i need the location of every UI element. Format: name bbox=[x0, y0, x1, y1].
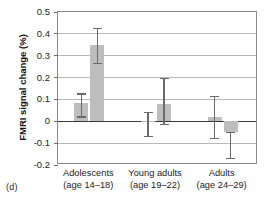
y-axis-tick-label: 0 bbox=[45, 115, 50, 126]
error-bar-cap bbox=[93, 63, 102, 64]
x-axis-group-name: Adolescents bbox=[63, 168, 114, 178]
error-bar-cap bbox=[144, 136, 153, 137]
error-bar bbox=[230, 132, 231, 158]
error-bar-cap bbox=[226, 132, 235, 133]
y-axis-tick-label: 0.1 bbox=[37, 93, 50, 104]
error-bar-cap bbox=[144, 112, 153, 113]
panel-label: (d) bbox=[6, 182, 18, 192]
plot-area bbox=[57, 11, 257, 164]
x-axis-group-name: Adults bbox=[209, 168, 235, 178]
error-bar bbox=[97, 28, 98, 63]
bar bbox=[224, 121, 238, 132]
gridline bbox=[58, 77, 256, 78]
error-bar-cap bbox=[77, 93, 86, 94]
error-bar bbox=[81, 94, 82, 117]
y-axis-tick bbox=[54, 143, 58, 144]
y-axis-tick-label: 0.4 bbox=[37, 27, 50, 38]
x-axis-group-name: Young adults bbox=[128, 168, 181, 178]
y-axis-tick bbox=[54, 55, 58, 56]
y-axis-tick bbox=[54, 99, 58, 100]
gridline bbox=[58, 55, 256, 56]
y-axis-tick bbox=[54, 165, 58, 166]
y-axis-tick bbox=[54, 33, 58, 34]
x-axis-group-label: Adults(age 24–29) bbox=[180, 168, 264, 191]
gridline bbox=[58, 33, 256, 34]
error-bar-cap bbox=[226, 158, 235, 159]
error-bar bbox=[163, 79, 164, 125]
y-axis-tick bbox=[54, 77, 58, 78]
y-axis-tick-label: -0.1 bbox=[34, 137, 50, 148]
error-bar-cap bbox=[77, 116, 86, 117]
error-bar-cap bbox=[160, 78, 169, 79]
y-axis-tick-label: 0.2 bbox=[37, 71, 50, 82]
error-bar-cap bbox=[210, 138, 219, 139]
x-axis-group-age-range: (age 24–29) bbox=[180, 180, 264, 192]
gridline bbox=[58, 143, 256, 144]
error-bar-cap bbox=[93, 28, 102, 29]
error-bar bbox=[147, 113, 148, 137]
error-bar-cap bbox=[210, 96, 219, 97]
error-bar-cap bbox=[160, 124, 169, 125]
y-axis-tick bbox=[54, 12, 58, 13]
y-axis-title: FMRI signal change (%) bbox=[17, 13, 28, 163]
y-axis-tick-label: 0.3 bbox=[37, 49, 50, 60]
error-bar bbox=[214, 96, 215, 139]
figure-panel: (d) FMRI signal change (%) 0.50.40.30.20… bbox=[0, 0, 272, 207]
y-axis-tick bbox=[54, 121, 58, 122]
y-axis-tick-label: 0.5 bbox=[37, 6, 50, 17]
gridline bbox=[58, 99, 256, 100]
